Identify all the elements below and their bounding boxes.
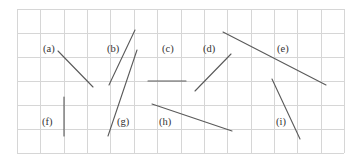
segment-label-h: (h) — [159, 116, 172, 128]
segment-label-i: (i) — [276, 116, 286, 128]
segment-label-b: (b) — [107, 43, 120, 55]
segment-label-g: (g) — [117, 116, 130, 128]
segment-label-c: (c) — [162, 43, 174, 55]
segment-label-a: (a) — [43, 43, 55, 55]
segment-grid-diagram: (a)(b)(c)(d)(e)(f)(g)(h)(i) — [0, 0, 354, 161]
segment-label-e: (e) — [277, 43, 289, 55]
segment-label-d: (d) — [203, 43, 216, 55]
segment-label-f: (f) — [42, 116, 53, 128]
